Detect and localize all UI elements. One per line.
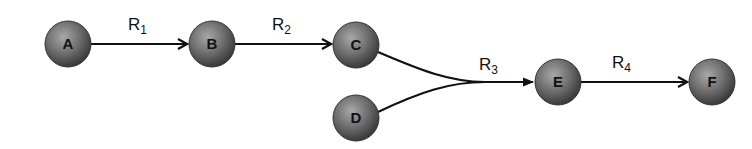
node-d: D xyxy=(333,95,379,141)
rate-label-r1: R1 xyxy=(128,15,147,37)
node-c-label: C xyxy=(351,36,362,53)
node-e-label: E xyxy=(553,73,563,90)
edge-c-to-merge xyxy=(378,52,485,82)
node-a: A xyxy=(45,21,91,67)
node-f-label: F xyxy=(707,73,716,90)
node-c: C xyxy=(333,22,379,68)
node-a-label: A xyxy=(63,35,74,52)
node-b: B xyxy=(189,21,235,67)
rate-label-r3: R3 xyxy=(479,55,498,77)
rate-label-r2: R2 xyxy=(272,15,291,37)
node-d-label: D xyxy=(351,109,362,126)
node-e: E xyxy=(535,59,581,105)
node-b-label: B xyxy=(207,35,218,52)
reaction-pathway-diagram: R1 R2 R3 R4 A B C D E F xyxy=(0,0,752,149)
edge-d-to-merge xyxy=(378,82,485,112)
rate-label-r4: R4 xyxy=(612,53,631,75)
node-f: F xyxy=(689,59,735,105)
